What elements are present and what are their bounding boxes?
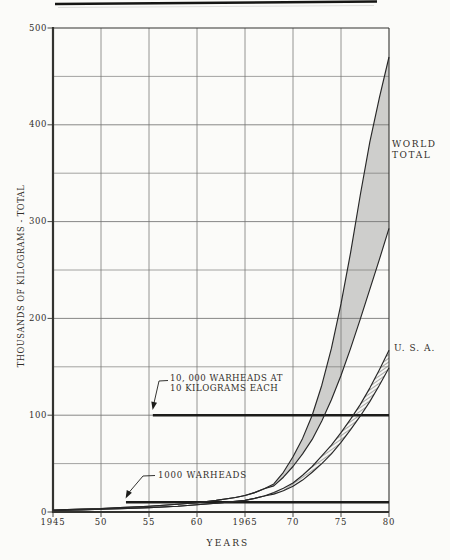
usa-label: U. S. A.: [394, 343, 435, 353]
x-tick-label: 60: [182, 517, 212, 527]
scanned-chart-page: THOUSANDS OF KILOGRAMS - TOTAL YEARS WOR…: [0, 0, 450, 560]
x-tick-label: 70: [278, 517, 308, 527]
y-axis-title: THOUSANDS OF KILOGRAMS - TOTAL: [16, 185, 26, 368]
annotation-arrowhead-1: [126, 490, 132, 498]
y-tick-label: 100: [18, 410, 47, 420]
warheads-10000-annotation-line1: 10, 000 WARHEADS AT: [170, 373, 283, 383]
x-axis-title: YEARS: [207, 538, 250, 548]
warheads-1000-annotation: 1000 WARHEADS: [158, 470, 247, 480]
x-tick-label: 75: [326, 517, 356, 527]
y-tick-label: 200: [18, 313, 47, 323]
y-tick-label: 300: [18, 216, 47, 226]
x-tick-label: 55: [134, 517, 164, 527]
x-tick-label: 1945: [38, 517, 68, 527]
warheads-10000-annotation-line2: 10 KILOGRAMS EACH: [170, 383, 278, 393]
world-total-label-line2: TOTAL: [392, 150, 431, 160]
annotation-arrowhead-0: [151, 402, 157, 410]
world-total-label-line1: WORLD: [392, 139, 437, 149]
x-tick-label: 80: [374, 517, 404, 527]
x-tick-label: 1965: [230, 517, 260, 527]
y-tick-label: 400: [18, 119, 47, 129]
annotation-leader-0: [154, 381, 168, 404]
x-tick-label: 50: [86, 517, 116, 527]
annotation-leader-1: [129, 476, 156, 494]
y-tick-label: 500: [18, 23, 47, 33]
y-tick-label: 0: [18, 507, 47, 517]
